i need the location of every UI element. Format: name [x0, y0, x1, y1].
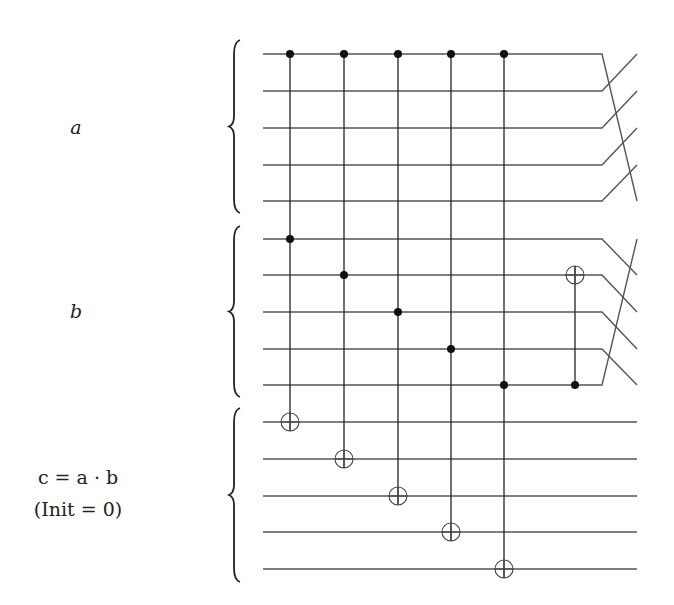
toffoli-target-2	[389, 487, 407, 505]
register-labels: a b c = a · b (Init = 0)	[34, 116, 122, 520]
register-label-a: a	[70, 116, 81, 138]
wire-a4	[263, 165, 637, 201]
wire-a3	[263, 128, 637, 165]
control-dot-icon	[394, 50, 402, 58]
control-dot-icon	[286, 235, 294, 243]
toffoli-target-0	[281, 413, 299, 431]
wire-a2	[263, 91, 637, 128]
circuit-diagram: a b c = a · b (Init = 0)	[0, 0, 674, 605]
wire-b2	[263, 312, 637, 349]
wire-b1	[263, 275, 637, 312]
control-dot-icon	[500, 50, 508, 58]
gates	[281, 50, 584, 578]
toffoli-target-3	[442, 523, 460, 541]
brace-a	[229, 40, 240, 213]
control-dot-icon	[571, 381, 579, 389]
toffoli-target-1	[335, 450, 353, 468]
register-label-b: b	[70, 300, 82, 322]
toffoli-target-4	[495, 560, 513, 578]
control-dot-icon	[500, 381, 508, 389]
register-label-c: c = a · b	[38, 466, 118, 488]
register-braces	[229, 40, 240, 582]
brace-b	[229, 226, 240, 397]
qubit-wires	[263, 54, 637, 569]
control-dot-icon	[447, 50, 455, 58]
brace-c	[229, 408, 240, 582]
wire-b3	[263, 349, 637, 385]
control-dot-icon	[447, 345, 455, 353]
control-dot-icon	[394, 308, 402, 316]
wire-a1	[263, 54, 637, 91]
register-label-c-init: (Init = 0)	[34, 498, 122, 520]
control-dot-icon	[340, 50, 348, 58]
wire-b0	[263, 239, 637, 275]
cnot-target-0	[566, 266, 584, 284]
control-dot-icon	[286, 50, 294, 58]
control-dot-icon	[340, 271, 348, 279]
